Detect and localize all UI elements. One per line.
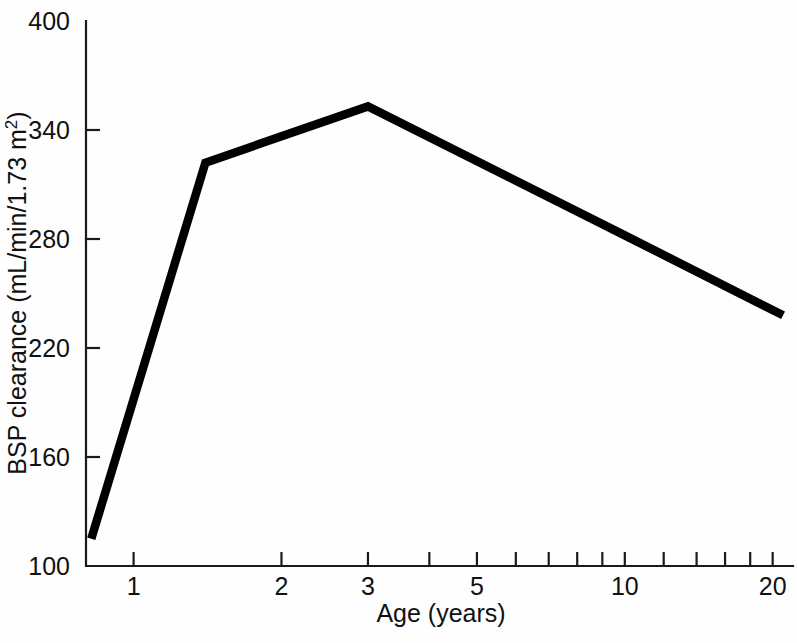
x-tick-label: 5	[470, 572, 484, 600]
x-axis-tick-labels: 12351020	[127, 572, 787, 600]
x-axis-title: Age (years)	[376, 599, 505, 627]
y-tick-label: 160	[28, 443, 70, 471]
y-tick-label: 340	[28, 116, 70, 144]
y-axis-tick-labels: 100160220280340400	[28, 7, 70, 580]
y-axis-title-suffix: )	[3, 111, 31, 119]
x-tick-label: 10	[611, 572, 639, 600]
y-tick-label: 400	[28, 7, 70, 35]
x-axis-ticks	[134, 552, 773, 566]
chart-svg: 100160220280340400 12351020 Age (years) …	[0, 0, 797, 643]
x-tick-label: 2	[275, 572, 289, 600]
y-tick-label: 280	[28, 225, 70, 253]
data-series-group	[91, 106, 783, 538]
x-tick-label: 20	[759, 572, 787, 600]
y-axis-title-text: BSP clearance (mL/min/1.73 m	[3, 129, 31, 475]
y-axis-ticks	[86, 130, 100, 457]
chart-figure: 100160220280340400 12351020 Age (years) …	[0, 0, 797, 643]
y-tick-label: 220	[28, 334, 70, 362]
y-axis-title: BSP clearance (mL/min/1.73 m2)	[2, 111, 31, 474]
y-axis-title-superscript: 2	[2, 120, 21, 129]
x-tick-label: 1	[127, 572, 141, 600]
x-tick-label: 3	[361, 572, 375, 600]
axes-frame	[86, 21, 793, 566]
y-tick-label: 100	[28, 552, 70, 580]
axis-lines	[86, 21, 793, 566]
data-line-bsp-clearance	[91, 106, 783, 538]
